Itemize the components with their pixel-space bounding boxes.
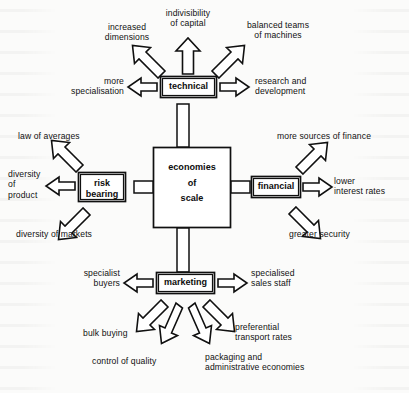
label-diversity-of-markets: diversity of markets [16,229,136,239]
arrow-research-and-development [220,78,249,96]
label-packaging-and-administrative-economies: packaging and administrative economies [205,352,355,373]
label-diversity-of-product: diversity of product [8,169,53,200]
arrow-balanced-teams-of-machines [212,46,245,79]
arrow-lower-interest-rates [303,178,332,196]
label-specialist-buyers: specialist buyers [58,268,120,289]
label-preferential-transport-rates: preferential transport rates [235,322,345,343]
label-greater-security: greater security [289,229,389,239]
center-node-label: economies of scale [153,160,231,207]
diagram-canvas: economies of scale technical risk bearin… [0,0,409,393]
arrow-specialist-buyers [124,274,153,292]
connector-center-right [231,181,250,193]
label-lower-interest-rates: lower interest rates [334,176,409,197]
connector-center-left [134,181,153,193]
label-control-of-quality: control of quality [92,356,192,366]
connector-center-top [177,104,189,147]
label-law-of-averages: law of averages [18,131,128,141]
label-bulk-buying: bulk buying [83,328,163,338]
technical-node-label: technical [160,81,217,92]
label-indivisibility-of-capital: indivisibility of capital [146,8,230,29]
arrow-increased-dimensions [133,46,166,79]
label-more-specialisation: more specialisation [34,76,124,97]
label-balanced-teams-of-machines: balanced teams of machines [228,20,328,41]
label-research-and-development: research and development [255,76,365,97]
label-specialised-sales-staff: specialised sales staff [251,268,341,289]
arrow-more-specialisation [128,78,157,96]
connector-center-bottom [177,228,189,272]
marketing-node-label: marketing [156,277,215,288]
financial-node-label: financial [251,181,301,192]
arrow-indivisibility-of-capital [176,38,200,74]
label-more-sources-of-finance: more sources of finance [277,131,407,141]
arrow-specialised-sales-staff [218,274,247,292]
arrow-law-of-averages [52,141,84,173]
arrow-more-sources-of-finance [296,143,328,175]
risk-bearing-node-label: risk bearing [78,178,126,199]
